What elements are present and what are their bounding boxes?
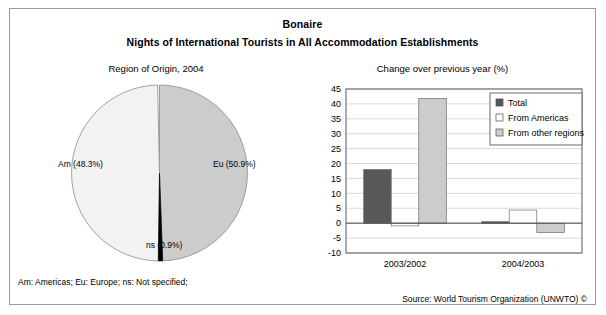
pie-chart: Am (48.3%) Eu (50.9%) ns (0.9%) [20,81,300,266]
bar-chart-caption: Change over previous year (%) [305,63,580,74]
source-credit: Source: World Tourism Organization (UNWT… [402,294,587,304]
y-tick-label: 25 [331,144,341,154]
legend-swatch-total [496,99,503,106]
screenshot-root: Bonaire Nights of International Tourists… [0,0,606,315]
y-tick-label: 0 [336,218,341,228]
legend-swatch-from-other-regions [496,129,503,136]
page-title: Bonaire [10,18,595,30]
footnote-abbreviations: Am: Americas; Eu: Europe; ns: Not specif… [18,277,188,287]
bar-2004-2003-from-other-regions [537,223,565,232]
x-tick-label: 2004/2003 [502,259,545,269]
bar-chart-y-axis-labels: -10-5051015202530354045 [328,84,341,258]
y-tick-label: 5 [336,203,341,213]
bar-2003-2002-from-other-regions [419,99,447,224]
pie-chart-caption: Region of Origin, 2004 [22,63,290,74]
pie-slice-am [72,85,160,261]
pie-label-ns: ns (0.9%) [146,240,182,250]
bar-2003-2002-total [364,170,392,224]
bar-chart-svg: -10-5051015202530354045 2003/20022004/20… [310,81,592,277]
y-tick-label: 40 [331,99,341,109]
legend-label-total: Total [508,98,527,108]
bar-chart-legend: TotalFrom AmericasFrom other regions [490,93,585,145]
pie-slice-eu [160,85,248,261]
bar-2004-2003-from-americas [509,210,537,223]
y-tick-label: 30 [331,129,341,139]
y-tick-label: 20 [331,159,341,169]
y-tick-label: 35 [331,114,341,124]
x-tick-label: 2003/2002 [384,259,427,269]
y-tick-label: -10 [328,248,341,258]
legend-label-from-americas: From Americas [508,113,569,123]
bar-chart-x-axis-labels: 2003/20022004/2003 [384,259,545,269]
y-tick-label: 45 [331,84,341,94]
legend-swatch-from-americas [496,114,503,121]
chart-panel: Bonaire Nights of International Tourists… [9,8,596,305]
bar-chart: -10-5051015202530354045 2003/20022004/20… [310,81,592,277]
y-tick-label: 15 [331,174,341,184]
pie-label-am: Am (48.3%) [58,159,103,169]
pie-chart-svg [20,81,300,266]
page-subtitle: Nights of International Tourists in All … [10,36,595,48]
y-tick-label: 10 [331,189,341,199]
y-tick-label: -5 [333,233,341,243]
pie-label-eu: Eu (50.9%) [213,159,256,169]
legend-label-from-other-regions: From other regions [508,128,585,138]
